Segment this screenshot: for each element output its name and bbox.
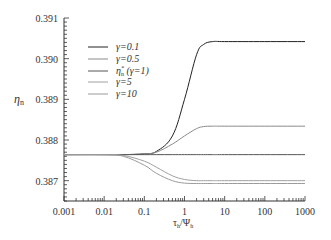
x-tick-label: 0.1 [138, 206, 151, 217]
y-axis-label: ηn [14, 92, 24, 107]
y-tick-label: 0.387 [36, 176, 59, 187]
legend: γ=0.1 γ=0.5 η*n (γ=1) γ=5 γ=10 [88, 41, 149, 99]
x-tick-label: 10 [220, 206, 230, 217]
y-tick-label: 0.390 [36, 54, 59, 65]
legend-label-gamma-10: γ=10 [116, 88, 137, 99]
y-tick-label: 0.388 [36, 135, 59, 146]
data-series [64, 41, 305, 183]
legend-label-gamma-0-5: γ=0.5 [116, 53, 139, 64]
y-tick-label: 0.391 [36, 13, 59, 24]
series-line-3 [64, 155, 305, 181]
axes: 0.3870.3880.3890.3900.391 0.0010.010.111… [36, 13, 316, 217]
x-tick-label: 1000 [295, 206, 315, 217]
legend-label-gamma-0-1: γ=0.1 [116, 41, 139, 52]
x-tick-label: 100 [257, 206, 272, 217]
y-tick-label: 0.389 [36, 94, 59, 105]
x-tick-labels: 0.0010.010.11101001000 [53, 206, 315, 217]
series-line-1 [64, 126, 305, 155]
x-tick-label: 0.001 [53, 206, 76, 217]
x-axis-label: τh/Ψh [173, 217, 193, 229]
legend-label-gamma-5: γ=5 [116, 76, 132, 87]
series-line-0 [64, 41, 305, 154]
x-ticks [64, 196, 305, 201]
chart-container: 0.3870.3880.3890.3900.391 0.0010.010.111… [0, 0, 331, 240]
x-tick-label: 0.01 [95, 206, 113, 217]
y-tick-labels: 0.3870.3880.3890.3900.391 [36, 13, 59, 187]
x-tick-label: 1 [182, 206, 187, 217]
y-ticks [64, 18, 69, 201]
